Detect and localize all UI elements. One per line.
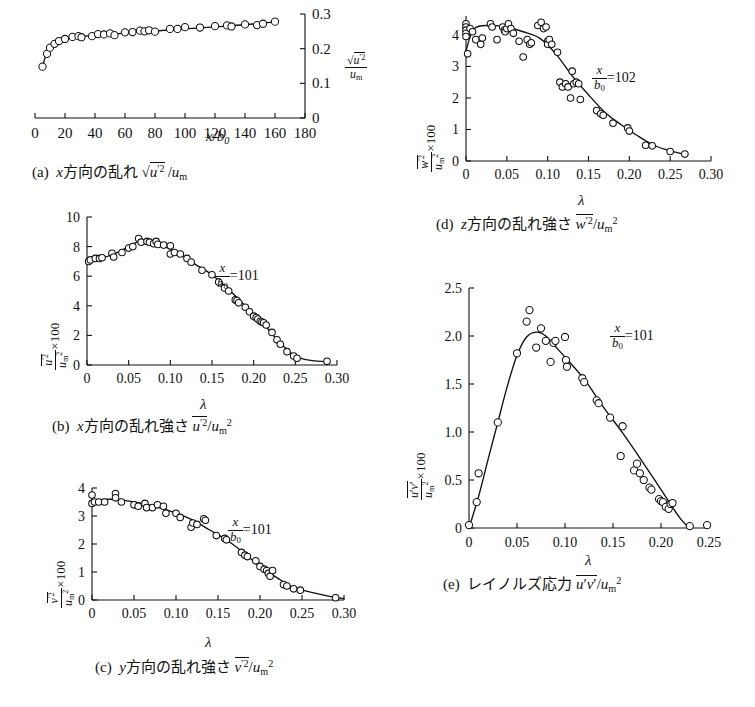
svg-text:6: 6: [73, 269, 80, 284]
svg-text:8: 8: [73, 240, 80, 255]
svg-text:0.25: 0.25: [658, 167, 683, 182]
panel-c: 00.050.100.150.200.250.3001234: [60, 478, 360, 638]
svg-text:0: 0: [312, 110, 320, 126]
panel-a-plot: 02040608010012014016018000.10.20.3: [0, 0, 400, 155]
svg-text:2: 2: [78, 537, 85, 552]
panel-c-annotation-value: 101: [251, 522, 272, 537]
svg-text:0.20: 0.20: [617, 167, 642, 182]
panel-d-plot: 00.050.100.150.200.250.3001234: [432, 6, 732, 196]
svg-text:0: 0: [452, 154, 459, 169]
panel-a: 02040608010012014016018000.10.20.3: [0, 0, 400, 155]
svg-text:160: 160: [264, 125, 287, 141]
figure-page: { "figure": { "background": "#ffffff", "…: [0, 0, 755, 707]
panel-c-ylabel: v′2 um2 ×100: [48, 561, 76, 608]
panel-d-caption-label: (d): [436, 216, 454, 232]
panel-a-xlabel: x/b0: [206, 128, 229, 146]
svg-text:1.0: 1.0: [445, 425, 463, 440]
svg-text:0.05: 0.05: [116, 371, 140, 386]
svg-text:180: 180: [294, 125, 317, 141]
svg-text:2: 2: [73, 328, 80, 343]
svg-text:2.5: 2.5: [445, 281, 463, 296]
svg-text:0.05: 0.05: [505, 535, 530, 550]
panel-b: 00.050.100.150.200.250.300246810: [55, 205, 355, 400]
panel-e-caption: (e) レイノルズ応力 u′v′/um2: [443, 572, 621, 594]
panel-b-xlabel: λ: [200, 396, 207, 413]
svg-text:0.20: 0.20: [649, 535, 674, 550]
panel-b-caption: (b) x方向の乱れ強さ u′2/um2: [52, 414, 232, 436]
panel-c-caption: (c) y方向の乱れ強さ v′2/um2: [95, 655, 273, 677]
panel-e-caption-label: (e): [443, 576, 460, 592]
svg-text:3: 3: [78, 509, 85, 524]
svg-text:0.1: 0.1: [312, 75, 331, 91]
panel-d-ylabel: w′2 um2 ×100: [418, 125, 446, 172]
svg-text:0.3: 0.3: [312, 6, 331, 22]
panel-b-annotation-value: 101: [238, 268, 259, 283]
panel-d-annotation-value: 102: [615, 70, 636, 85]
svg-text:1: 1: [452, 122, 459, 137]
svg-text:0: 0: [73, 358, 80, 373]
svg-text:2: 2: [452, 91, 459, 106]
svg-text:4: 4: [78, 481, 85, 496]
panel-d-annotation: x b0 =102: [592, 64, 636, 93]
panel-e-annotation-value: 101: [633, 328, 654, 343]
svg-text:0: 0: [466, 535, 473, 550]
svg-text:0: 0: [78, 593, 85, 608]
svg-text:20: 20: [58, 125, 73, 141]
panel-c-caption-label: (c): [95, 659, 112, 675]
panel-e: 00.050.100.150.200.2500.51.01.52.02.5: [425, 276, 735, 561]
svg-text:0.10: 0.10: [158, 371, 183, 386]
svg-text:4: 4: [452, 28, 459, 43]
svg-text:0.30: 0.30: [699, 167, 724, 182]
svg-text:2.0: 2.0: [445, 329, 463, 344]
panel-c-plot: 00.050.100.150.200.250.3001234: [60, 478, 360, 638]
panel-d: 00.050.100.150.200.250.3001234: [432, 6, 732, 196]
svg-text:80: 80: [148, 125, 163, 141]
svg-text:40: 40: [88, 125, 103, 141]
svg-text:0.25: 0.25: [283, 371, 308, 386]
panel-e-annotation: x b0 =101: [610, 322, 654, 351]
svg-text:0.10: 0.10: [535, 167, 560, 182]
svg-text:0.20: 0.20: [241, 371, 266, 386]
svg-text:10: 10: [66, 210, 80, 225]
svg-text:0.15: 0.15: [601, 535, 626, 550]
svg-text:0: 0: [84, 371, 91, 386]
svg-text:0.25: 0.25: [290, 606, 315, 621]
panel-a-caption: (a) x方向の乱れ √u′2 /um: [32, 160, 187, 182]
svg-text:0.2: 0.2: [312, 41, 331, 57]
panel-e-plot: 00.050.100.150.200.2500.51.01.52.02.5: [425, 276, 735, 561]
panel-e-ylabel: u′v′ um2 ×100: [408, 453, 436, 500]
svg-text:0.10: 0.10: [553, 535, 578, 550]
panel-c-xlabel: λ: [205, 634, 212, 651]
svg-text:0: 0: [89, 606, 96, 621]
panel-e-xlabel: λ: [585, 552, 592, 569]
panel-c-annotation: x b0 =101: [228, 516, 272, 545]
panel-a-caption-label: (a): [32, 164, 49, 180]
svg-text:0: 0: [463, 167, 470, 182]
svg-text:0.20: 0.20: [248, 606, 273, 621]
svg-text:100: 100: [174, 125, 197, 141]
svg-text:4: 4: [73, 299, 80, 314]
panel-a-ylabel: √u′2 um: [345, 52, 367, 82]
svg-text:0.30: 0.30: [332, 606, 357, 621]
svg-text:0.15: 0.15: [200, 371, 225, 386]
panel-b-annotation: x b0 =101: [215, 262, 259, 291]
svg-text:0.5: 0.5: [445, 473, 463, 488]
panel-b-ylabel: u′2 um2 ×100: [42, 323, 70, 370]
panel-d-caption: (d) z方向の乱れ強さ w′2/um2: [436, 212, 618, 234]
svg-text:0.15: 0.15: [576, 167, 601, 182]
svg-text:3: 3: [452, 59, 459, 74]
panel-d-xlabel: λ: [578, 192, 585, 209]
svg-text:0: 0: [31, 125, 39, 141]
svg-text:140: 140: [234, 125, 257, 141]
svg-text:0.30: 0.30: [325, 371, 350, 386]
svg-text:0.05: 0.05: [122, 606, 147, 621]
svg-text:0.15: 0.15: [206, 606, 231, 621]
svg-text:1.5: 1.5: [445, 377, 463, 392]
svg-text:0.10: 0.10: [164, 606, 189, 621]
panel-b-caption-label: (b): [52, 418, 70, 434]
svg-text:0.05: 0.05: [495, 167, 519, 182]
svg-text:60: 60: [118, 125, 133, 141]
svg-text:0.25: 0.25: [697, 535, 722, 550]
svg-text:0: 0: [455, 521, 462, 536]
svg-text:1: 1: [78, 565, 85, 580]
